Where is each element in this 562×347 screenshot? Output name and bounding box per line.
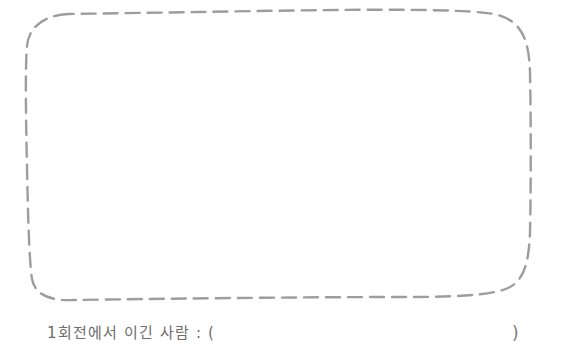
winner-prompt-label: 1회전에서 이긴 사람 : ( <box>47 322 215 344</box>
winner-prompt-line: 1회전에서 이긴 사람 : ( ) <box>0 322 562 347</box>
winner-prompt-close-paren: ) <box>512 322 519 344</box>
answer-box-writing-area[interactable] <box>26 12 532 298</box>
worksheet-page: 1회전에서 이긴 사람 : ( ) <box>0 0 562 347</box>
